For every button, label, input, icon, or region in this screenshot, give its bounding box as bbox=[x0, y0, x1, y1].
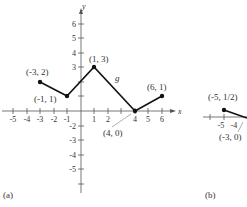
x-tick: -3 bbox=[37, 115, 44, 124]
x-arrow-icon bbox=[170, 109, 176, 113]
x-axis-label: x bbox=[177, 107, 182, 116]
y-axis-label: y bbox=[81, 2, 86, 11]
y-tick: -4 bbox=[69, 151, 76, 160]
x-tick: -4 bbox=[24, 115, 31, 124]
leader-line-b bbox=[238, 122, 243, 132]
x-tick: 5 bbox=[146, 115, 150, 124]
x-tick-b: -4 bbox=[231, 121, 238, 130]
y-tick: 5 bbox=[72, 34, 76, 43]
x-tick: 1 bbox=[92, 115, 96, 124]
panel-label-a: (a) bbox=[3, 190, 13, 200]
y-tick: -3 bbox=[69, 136, 76, 145]
point-label: (1, 3) bbox=[89, 54, 109, 64]
panel-label-b: (b) bbox=[205, 190, 216, 200]
point-label-b: (-5, 1/2) bbox=[208, 92, 238, 102]
y-tick: 6 bbox=[72, 20, 76, 29]
y-tick: -2 bbox=[69, 122, 76, 131]
x-tick: 6 bbox=[160, 115, 164, 124]
y-tick: 3 bbox=[72, 63, 76, 72]
x-tick: -5 bbox=[10, 115, 17, 124]
x-tick-b: -5 bbox=[218, 121, 225, 130]
leader-line bbox=[112, 114, 131, 127]
point-label: (4, 0) bbox=[103, 128, 123, 138]
function-g-line bbox=[40, 67, 162, 111]
point-label: (6, 1) bbox=[147, 82, 167, 92]
y-tick: 4 bbox=[72, 49, 76, 58]
x-tick: 2 bbox=[106, 115, 110, 124]
x-tick: 4 bbox=[133, 115, 137, 124]
x-tick: -2 bbox=[51, 115, 58, 124]
point-label: (-3, 2) bbox=[26, 67, 49, 77]
axes-a bbox=[2, 8, 176, 193]
point-label: (-1, 1) bbox=[34, 94, 57, 104]
y-tick: -5 bbox=[69, 165, 76, 174]
figure-canvas: -5 -4 -3 -2 -1 1 2 4 5 6 6 5 4 3 -2 -3 -… bbox=[0, 0, 247, 207]
data-point-b bbox=[222, 108, 226, 112]
point-label-b: (-3, 0) bbox=[219, 132, 242, 142]
function-label-g: g bbox=[115, 73, 120, 83]
